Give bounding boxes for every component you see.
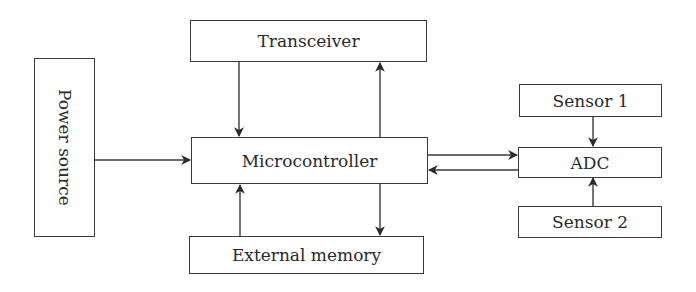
sensor1-block: Sensor 1 xyxy=(519,84,662,117)
adc-block: ADC xyxy=(518,147,662,178)
power-source-block: Power source xyxy=(34,58,95,237)
sensor2-block: Sensor 2 xyxy=(518,206,662,238)
transceiver-label: Transceiver xyxy=(257,31,359,51)
external-memory-block: External memory xyxy=(189,236,424,274)
adc-label: ADC xyxy=(571,153,610,173)
sensor2-label: Sensor 2 xyxy=(552,212,628,232)
sensor1-label: Sensor 1 xyxy=(553,91,629,111)
microcontroller-block: Microcontroller xyxy=(191,137,428,184)
microcontroller-label: Microcontroller xyxy=(242,151,378,171)
power-source-label: Power source xyxy=(55,89,75,206)
block-diagram: Power source Transceiver Microcontroller… xyxy=(0,0,696,292)
external-memory-label: External memory xyxy=(232,245,381,265)
transceiver-block: Transceiver xyxy=(190,20,427,62)
